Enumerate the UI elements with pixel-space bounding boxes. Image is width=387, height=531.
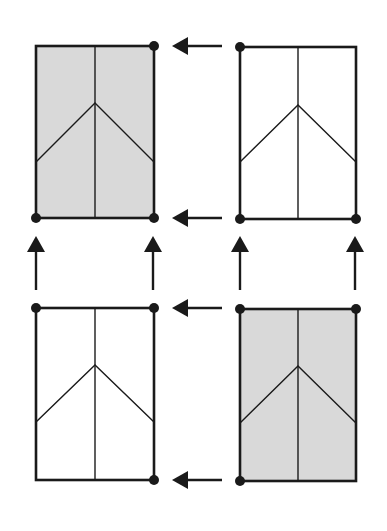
arrow-head: [346, 236, 364, 252]
panel-bottom-left: [31, 303, 159, 485]
corner-dot-bottom-left: [235, 476, 245, 486]
arrow-head: [172, 471, 188, 489]
corner-dot-bottom-right: [149, 213, 159, 223]
arrow-up-4-icon: [346, 236, 364, 290]
arrow-head: [231, 236, 249, 252]
arrow-head: [144, 236, 162, 252]
arrow-bottom-upper-left-icon: [172, 299, 222, 317]
panel-top-left: [31, 41, 159, 223]
corner-dot-top-right: [149, 303, 159, 313]
arrow-head: [172, 37, 188, 55]
arrow-top-lower-left-icon: [172, 209, 222, 227]
arrow-up-1-icon: [27, 236, 45, 290]
arrow-head: [172, 299, 188, 317]
arrow-top-upper-left-icon: [172, 37, 222, 55]
arrow-up-3-icon: [231, 236, 249, 290]
folding-diagram: [0, 0, 387, 531]
arrow-up-2-icon: [144, 236, 162, 290]
arrow-bottom-lower-left-icon: [172, 471, 222, 489]
corner-dot-bottom-right: [149, 475, 159, 485]
corner-dot-bottom-right: [351, 214, 361, 224]
corner-dot-top-right: [149, 41, 159, 51]
panel-bottom-right: [235, 304, 361, 486]
arrow-head: [27, 236, 45, 252]
corner-dot-top-left: [235, 42, 245, 52]
corner-dot-top-left: [235, 304, 245, 314]
arrow-head: [172, 209, 188, 227]
corner-dot-bottom-left: [235, 214, 245, 224]
panel-top-right: [235, 42, 361, 224]
corner-dot-bottom-left: [31, 213, 41, 223]
corner-dot-top-right: [351, 304, 361, 314]
corner-dot-top-left: [31, 303, 41, 313]
